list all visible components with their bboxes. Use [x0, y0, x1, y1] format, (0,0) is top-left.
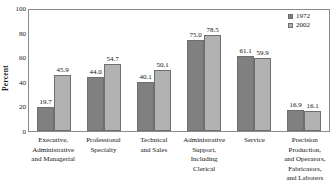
bar-rect[interactable]	[187, 40, 204, 132]
bar-1972[interactable]: 19.7	[37, 10, 54, 131]
bar-group: 44.054.7	[79, 10, 129, 131]
bar-rect[interactable]	[204, 35, 221, 131]
bar-rect[interactable]	[87, 77, 104, 131]
bar-value-label: 16.9	[289, 101, 301, 109]
bar-group: 40.150.1	[129, 10, 179, 131]
bar-2002[interactable]: 54.7	[104, 10, 121, 131]
x-axis-label-line: Clerical	[175, 165, 233, 175]
plot-area: 19.745.944.054.740.150.175.078.561.159.9…	[28, 9, 330, 132]
plot-inner: 19.745.944.054.740.150.175.078.561.159.9…	[29, 10, 329, 131]
bar-value-label: 19.7	[39, 98, 51, 106]
y-axis-tick-label: 40	[4, 79, 26, 87]
bar-2002[interactable]: 50.1	[154, 10, 171, 131]
x-axis-label-line: Including	[175, 155, 233, 165]
bar-value-label: 78.5	[206, 26, 218, 34]
y-axis-tick-label: 60	[4, 54, 26, 62]
bar-value-label: 61.1	[239, 47, 251, 55]
bar-value-label: 54.7	[106, 55, 118, 63]
bar-group: 61.159.9	[229, 10, 279, 131]
bar-rect[interactable]	[304, 111, 321, 131]
bar-1972[interactable]: 61.1	[237, 10, 254, 131]
bar-value-label: 59.9	[256, 49, 268, 57]
y-axis-tick-label: 100	[4, 5, 26, 13]
legend-label: 1972	[296, 12, 310, 20]
bar-1972[interactable]: 75.0	[187, 10, 204, 131]
bar-chart: Percent 020406080100 19.745.944.054.740.…	[0, 0, 333, 195]
x-axis-label-line: and Managerial	[24, 155, 82, 165]
y-axis-tick-label: 20	[4, 103, 26, 111]
x-axis-category-labels: Executive,Administrativeand ManagerialPr…	[28, 136, 330, 195]
legend-label: 2002	[296, 21, 310, 29]
bar-group: 19.745.9	[29, 10, 79, 131]
x-axis-label-line: Fabricators,	[276, 165, 333, 175]
legend-swatch-icon	[288, 14, 293, 19]
x-axis-category-label: PrecisionProduction,and Operators,Fabric…	[276, 136, 333, 184]
y-axis-tick-label: 80	[4, 30, 26, 38]
bar-rect[interactable]	[254, 58, 271, 131]
legend-swatch-icon	[288, 23, 293, 28]
y-axis-tick-labels: 020406080100	[4, 9, 26, 132]
bar-rect[interactable]	[287, 110, 304, 131]
bar-2002[interactable]: 78.5	[204, 10, 221, 131]
legend-item[interactable]: 1972	[288, 12, 330, 20]
x-axis-label-line: Support,	[175, 146, 233, 156]
bar-rect[interactable]	[154, 70, 171, 131]
x-axis-label-line: Precision	[276, 136, 333, 146]
bar-value-label: 16.1	[306, 102, 318, 110]
bar-1972[interactable]: 44.0	[87, 10, 104, 131]
bar-rect[interactable]	[137, 82, 154, 131]
bar-value-label: 75.0	[189, 31, 201, 39]
x-axis-label-line: and Operators,	[276, 155, 333, 165]
chart-title-clipped	[0, 0, 333, 3]
bar-rect[interactable]	[104, 64, 121, 131]
legend-item[interactable]: 2002	[288, 21, 330, 29]
bar-2002[interactable]: 45.9	[54, 10, 71, 131]
bar-rect[interactable]	[237, 56, 254, 131]
bar-1972[interactable]: 40.1	[137, 10, 154, 131]
bar-value-label: 50.1	[156, 61, 168, 69]
bar-2002[interactable]: 59.9	[254, 10, 271, 131]
x-axis-label-line: and Laborers	[276, 174, 333, 184]
bar-value-label: 44.0	[89, 68, 101, 76]
legend: 19722002	[288, 12, 330, 30]
bar-value-label: 40.1	[139, 73, 151, 81]
y-axis-tick-label: 0	[4, 128, 26, 136]
x-axis-label-line: Production,	[276, 146, 333, 156]
bar-value-label: 45.9	[56, 66, 68, 74]
bar-rect[interactable]	[37, 107, 54, 131]
bar-group: 75.078.5	[179, 10, 229, 131]
bar-rect[interactable]	[54, 75, 71, 131]
